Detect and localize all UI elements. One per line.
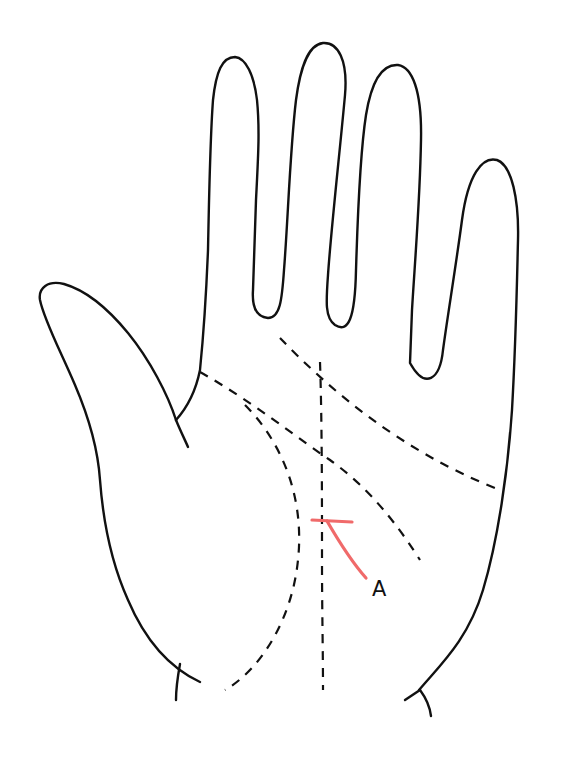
- marker-pointer: [327, 521, 366, 578]
- thumb-crease: [176, 420, 188, 447]
- life-line: [225, 405, 299, 690]
- annotation-label-a: A: [372, 577, 387, 601]
- hand-outline: [176, 43, 518, 690]
- head-line: [200, 372, 420, 560]
- wrist-right-branch: [405, 690, 420, 700]
- wrist-left-tick: [176, 664, 180, 700]
- wrist-right-tick: [420, 690, 431, 716]
- palm-diagram: A: [0, 0, 563, 763]
- thumb-outline: [40, 283, 200, 682]
- marker-crossbar: [312, 520, 352, 522]
- fate-line: [320, 362, 323, 690]
- finger-crease-line: [280, 338, 495, 488]
